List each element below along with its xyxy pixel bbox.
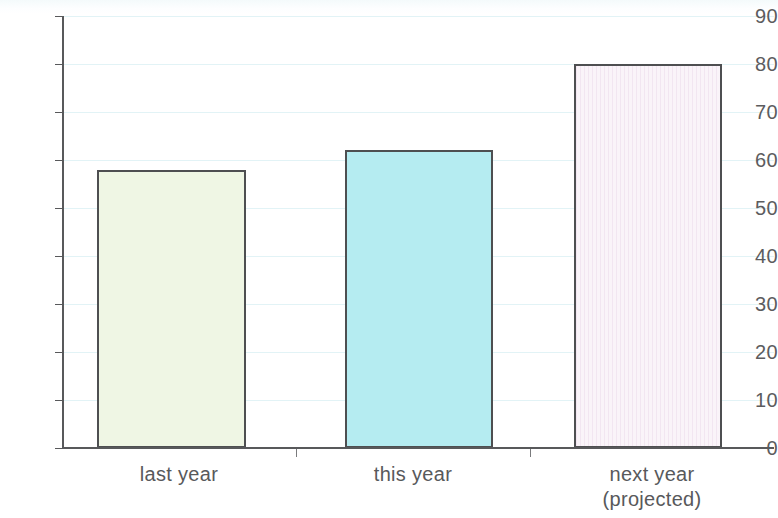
y-tick-label-40: 40: [732, 246, 778, 266]
x-category-label-next-year: next year (projected): [530, 462, 774, 512]
y-tick-mark-0: [55, 448, 62, 449]
x-category-label-line: last year: [62, 462, 296, 487]
y-tick-mark-60: [55, 160, 62, 161]
y-tick-mark-40: [55, 256, 62, 257]
y-tick-label-50: 50: [732, 198, 778, 218]
y-tick-label-20: 20: [732, 342, 778, 362]
bar-this-year: [345, 150, 493, 448]
x-category-label-line-2: (projected): [530, 487, 774, 512]
x-axis-line: [62, 447, 774, 449]
y-tick-label-0: 0: [732, 438, 778, 458]
bar-next-year: [574, 64, 722, 448]
y-tick-mark-70: [55, 112, 62, 113]
y-tick-mark-30: [55, 304, 62, 305]
bar-chart: 90 80 70 60 50 40 30 20 10 0 last year t…: [0, 0, 778, 518]
y-axis-line: [62, 16, 64, 449]
bar-fill-next-year: [576, 66, 720, 446]
y-tick-label-30: 30: [732, 294, 778, 314]
y-tick-mark-20: [55, 352, 62, 353]
x-tick-mark-2: [530, 449, 531, 457]
y-tick-mark-50: [55, 208, 62, 209]
x-category-label-last-year: last year: [62, 462, 296, 487]
y-tick-label-60: 60: [732, 150, 778, 170]
x-category-label-line: next year: [530, 462, 774, 487]
scan-artifact: [0, 0, 778, 14]
bars-layer: [62, 16, 774, 448]
y-tick-label-80: 80: [732, 54, 778, 74]
x-category-label-line: this year: [296, 462, 530, 487]
bar-fill-last-year: [99, 172, 244, 446]
y-tick-label-10: 10: [732, 390, 778, 410]
bar-fill-this-year: [347, 152, 491, 446]
bar-last-year: [97, 170, 246, 448]
x-tick-mark-1: [296, 449, 297, 457]
y-tick-label-90: 90: [732, 6, 778, 26]
x-category-label-this-year: this year: [296, 462, 530, 487]
y-tick-mark-10: [55, 400, 62, 401]
y-tick-mark-80: [55, 64, 62, 65]
y-tick-mark-90: [55, 16, 62, 17]
y-tick-label-70: 70: [732, 102, 778, 122]
